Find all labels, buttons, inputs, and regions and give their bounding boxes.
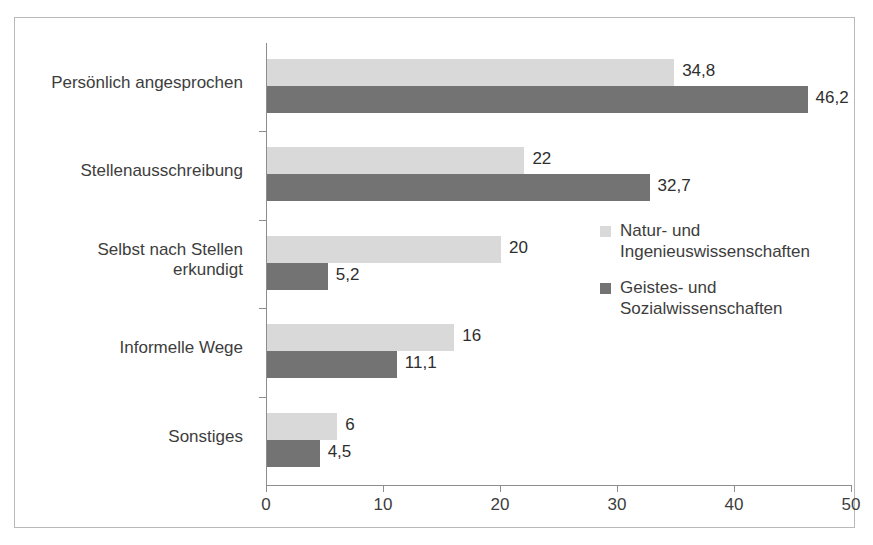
bar-value-label: 32,7 [658, 176, 691, 196]
legend-entry[interactable]: Natur- undIngenieuswissenschaften [600, 221, 850, 262]
category-label-line: Sonstiges [0, 427, 243, 447]
x-tick-label: 20 [480, 495, 520, 515]
bar-value-label: 5,2 [336, 265, 360, 285]
figure-title-strip: Abbildung 5: Wege in die aktuelle Beschä… [0, 0, 873, 3]
category-tick [259, 308, 266, 309]
category-label-line: Persönlich angesprochen [0, 73, 243, 93]
legend-entry[interactable]: Geistes- undSozialwissenschaften [600, 278, 850, 319]
bar-row: 4,5 [267, 440, 856, 467]
bar-group: Stellenausschreibung2232,7 [267, 147, 856, 201]
bar-row: 32,7 [267, 174, 856, 201]
legend-swatch-icon [600, 226, 611, 237]
bar-value-label: 20 [509, 238, 528, 258]
bar[interactable] [267, 174, 650, 201]
bar-row: 34,8 [267, 59, 856, 86]
x-tick-label: 30 [597, 495, 637, 515]
x-tick-label: 0 [246, 495, 286, 515]
category-tick [259, 131, 266, 132]
category-label: Sonstiges [0, 427, 243, 447]
bar-row: 11,1 [267, 351, 856, 378]
x-tick [383, 485, 384, 492]
category-label: Informelle Wege [0, 338, 243, 358]
bar-value-label: 4,5 [328, 442, 352, 462]
category-label-line: Selbst nach Stellen [0, 240, 243, 260]
category-label-line: Informelle Wege [0, 338, 243, 358]
bar-value-label: 16 [462, 326, 481, 346]
bar[interactable] [267, 236, 501, 263]
bar[interactable] [267, 351, 397, 378]
legend-swatch-icon [600, 283, 611, 294]
category-label: Selbst nach Stellenerkundigt [0, 240, 243, 280]
bar[interactable] [267, 147, 524, 174]
chart-legend: Natur- undIngenieuswissenschaftenGeistes… [600, 221, 850, 336]
x-tick-label: 50 [831, 495, 871, 515]
chart-frame: 01020304050 Persönlich angesprochen34,84… [14, 17, 855, 528]
category-tick [259, 220, 266, 221]
category-label-line: Stellenausschreibung [0, 161, 243, 181]
bar-value-label: 22 [532, 149, 551, 169]
bar[interactable] [267, 440, 320, 467]
x-tick-label: 40 [714, 495, 754, 515]
legend-label-line: Geistes- und [620, 278, 850, 299]
bar-row: 46,2 [267, 86, 856, 113]
bar-row: 6 [267, 413, 856, 440]
bar-group: Sonstiges64,5 [267, 413, 856, 467]
bar[interactable] [267, 263, 328, 290]
bar[interactable] [267, 324, 454, 351]
x-tick [266, 485, 267, 492]
x-axis-line [266, 485, 851, 486]
category-label: Persönlich angesprochen [0, 73, 243, 93]
x-tick [734, 485, 735, 492]
bar[interactable] [267, 413, 337, 440]
category-label: Stellenausschreibung [0, 161, 243, 181]
x-tick [851, 485, 852, 492]
bar[interactable] [267, 86, 808, 113]
bar-value-label: 11,1 [405, 353, 437, 373]
bar-value-label: 34,8 [682, 61, 715, 81]
x-tick-label: 10 [363, 495, 403, 515]
bar-value-label: 6 [345, 415, 354, 435]
x-tick [617, 485, 618, 492]
category-tick [259, 397, 266, 398]
legend-label-line: Sozialwissenschaften [620, 299, 850, 320]
legend-label-line: Ingenieuswissenschaften [620, 242, 850, 263]
bar[interactable] [267, 59, 674, 86]
bar-value-label: 46,2 [816, 88, 849, 108]
bar-row: 22 [267, 147, 856, 174]
category-label-line: erkundigt [0, 260, 243, 280]
x-tick [500, 485, 501, 492]
figure-title: Abbildung 5: Wege in die aktuelle Beschä… [108, 0, 696, 1]
legend-label-line: Natur- und [620, 221, 850, 242]
bar-group: Persönlich angesprochen34,846,2 [267, 59, 856, 113]
